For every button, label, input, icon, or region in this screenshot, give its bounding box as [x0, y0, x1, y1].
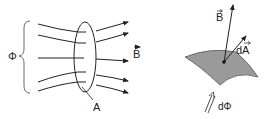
surface-point: [222, 60, 226, 64]
field-label-left: B: [133, 47, 140, 60]
magnetic-flux-diagram: Φ A B: [0, 0, 268, 119]
svg-text:B: B: [216, 11, 223, 23]
area-label: A: [93, 101, 101, 113]
svg-text:B: B: [133, 48, 140, 60]
surface-element-figure: B dA dΦ: [185, 5, 258, 113]
flux-element-arrow: [205, 92, 215, 113]
flux-label: Φ: [8, 50, 17, 62]
flux-tube-figure: Φ A B: [8, 21, 140, 113]
flux-element-label: dΦ: [218, 101, 232, 112]
field-lines: [38, 22, 128, 93]
flux-brace: [19, 21, 30, 93]
area-pointer: [82, 87, 93, 100]
svg-text:dA: dA: [236, 44, 250, 56]
b-vector-label: B: [216, 10, 223, 24]
da-vector-label: dA: [236, 42, 251, 57]
